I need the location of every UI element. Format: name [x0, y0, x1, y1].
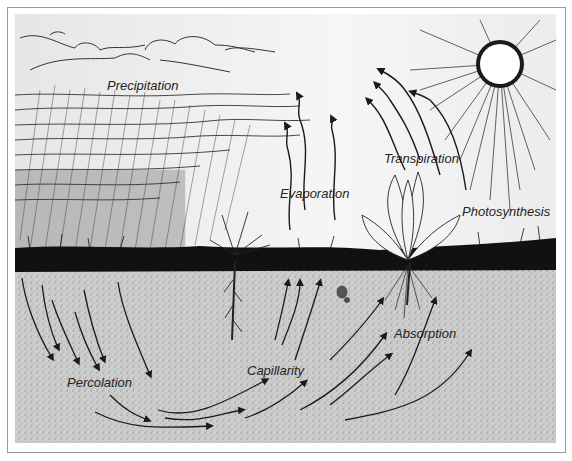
label-transpiration: Transpiration	[384, 151, 459, 166]
soil	[15, 258, 556, 443]
label-photosynthesis: Photosynthesis	[462, 204, 550, 219]
label-percolation: Percolation	[67, 375, 132, 390]
label-evaporation: Evaporation	[280, 186, 349, 201]
label-precipitation: Precipitation	[107, 78, 179, 93]
label-capillarity: Capillarity	[247, 363, 304, 378]
diagram-canvas: Precipitation Evaporation Transpiration …	[15, 14, 556, 443]
label-absorption: Absorption	[394, 326, 456, 341]
